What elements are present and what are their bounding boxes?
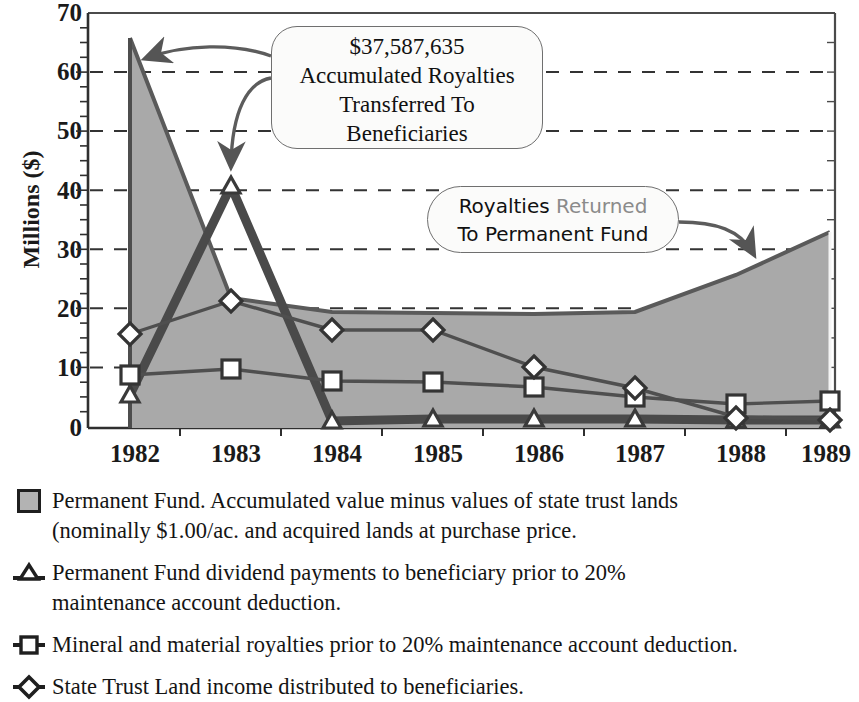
callout-returned-line-2: To Permanent Fund bbox=[428, 220, 678, 248]
arrow-to-permanent-fund bbox=[147, 47, 271, 58]
square-marker-icon bbox=[6, 630, 52, 658]
callout-line-amount: $37,587,635 bbox=[272, 32, 542, 61]
arrow-to-dividend-peak bbox=[231, 78, 271, 165]
callout-returned-line-1: Royalties Returned bbox=[428, 192, 678, 220]
legend-text-dividend-payments: Permanent Fund dividend payments to bene… bbox=[52, 558, 626, 618]
legend-item-mineral-royalties: Mineral and material royalties prior to … bbox=[6, 630, 859, 660]
shaded-square-icon bbox=[6, 486, 52, 514]
legend-line-1: Mineral and material royalties prior to … bbox=[52, 632, 738, 657]
triangle-marker-icon bbox=[6, 558, 52, 586]
chart-legend: Permanent Fund. Accumulated value minus … bbox=[0, 486, 859, 684]
legend-item-dividend-payments: Permanent Fund dividend payments to bene… bbox=[6, 558, 859, 618]
callout-returned-word-royalties: Royalties bbox=[459, 194, 556, 218]
legend-line-1: Permanent Fund. Accumulated value minus … bbox=[52, 488, 678, 513]
legend-line-1: State Trust Land income distributed to b… bbox=[52, 674, 524, 699]
legend-text-mineral-royalties: Mineral and material royalties prior to … bbox=[52, 630, 738, 660]
legend-text-permanent-fund: Permanent Fund. Accumulated value minus … bbox=[52, 486, 678, 546]
callout-accumulated-royalties: $37,587,635 Accumulated Royalties Transf… bbox=[271, 26, 543, 149]
y-axis-minor-ticks bbox=[76, 28, 88, 412]
legend-line-1: Permanent Fund dividend payments to bene… bbox=[52, 560, 626, 585]
legend-item-permanent-fund: Permanent Fund. Accumulated value minus … bbox=[6, 486, 859, 546]
legend-line-2: maintenance account deduction. bbox=[52, 588, 626, 618]
callout-returned-word-returned: Returned bbox=[556, 194, 647, 218]
legend-text-state-trust-land: State Trust Land income distributed to b… bbox=[52, 672, 524, 702]
callout-line-4: Beneficiaries bbox=[272, 119, 542, 148]
chart-plot-area: Millions ($) 70 60 50 40 30 20 10 0 1982… bbox=[0, 0, 859, 484]
legend-item-state-trust-land: State Trust Land income distributed to b… bbox=[6, 672, 859, 702]
callout-line-3: Transferred To bbox=[272, 90, 542, 119]
callout-royalties-returned: Royalties Returned To Permanent Fund bbox=[427, 186, 679, 253]
callout-line-2: Accumulated Royalties bbox=[272, 61, 542, 90]
legend-line-2: (nominally $1.00/ac. and acquired lands … bbox=[52, 516, 678, 546]
diamond-marker-icon bbox=[6, 672, 52, 700]
